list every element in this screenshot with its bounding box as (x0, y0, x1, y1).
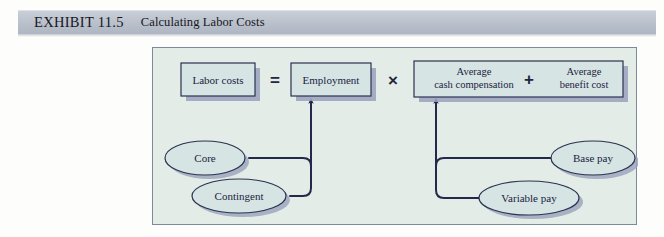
connector-core-to-employment (249, 158, 311, 180)
connector-variablepay-to-compensation (436, 182, 479, 198)
node-label-core: Core (194, 152, 216, 164)
diagram-panel: Labor costs = Employment × Average cash … (152, 47, 637, 225)
operator-equals: = (270, 71, 280, 90)
node-employment: Employment (291, 63, 376, 101)
exhibit-header: EXHIBIT 11.5 Calculating Labor Costs (18, 10, 656, 34)
exhibit-number: EXHIBIT 11.5 (34, 14, 124, 31)
connector-contingent-to-employment (290, 182, 311, 196)
node-average-compensation-group: Average cash compensation + Average bene… (414, 61, 628, 102)
node-label-employment: Employment (303, 74, 360, 86)
node-label-contingent: Contingent (215, 190, 264, 202)
node-variable-pay: Variable pay (479, 181, 583, 219)
operator-times: × (388, 71, 398, 90)
node-label-variable-pay: Variable pay (501, 192, 557, 204)
node-label-average-benefit-line2: benefit cost (560, 79, 609, 90)
connector-basepay-to-compensation (436, 158, 553, 180)
exhibit-title: Calculating Labor Costs (141, 15, 265, 30)
operator-plus: + (524, 70, 534, 89)
node-label-labor-costs: Labor costs (192, 74, 243, 86)
node-label-average-cash-comp-line1: Average (457, 66, 492, 77)
node-label-average-cash-comp-line2: cash compensation (434, 79, 514, 90)
node-labor-costs: Labor costs (181, 63, 260, 101)
node-core: Core (165, 141, 249, 179)
node-label-average-benefit-line1: Average (567, 66, 602, 77)
node-contingent: Contingent (192, 179, 290, 217)
node-label-base-pay: Base pay (573, 152, 614, 164)
node-base-pay: Base pay (551, 141, 638, 179)
